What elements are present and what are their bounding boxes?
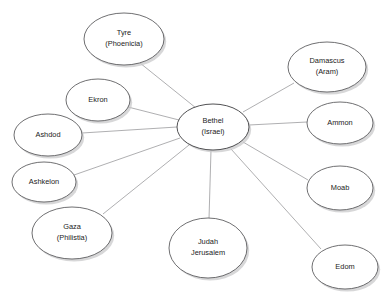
edge-bethel-to-judah [209, 150, 211, 219]
edge-bethel-to-ashkelon [74, 138, 180, 175]
node-label-tyre-line-1: Tyre [117, 28, 131, 37]
node-ashkelon[interactable]: Ashkelon [12, 162, 78, 205]
edge-bethel-to-tyre [140, 63, 196, 108]
edge-bethel-to-damascus [243, 83, 294, 112]
edge-bethel-to-gaza [103, 145, 189, 214]
node-label-bethel-line-1: Bethel [203, 116, 224, 125]
node-edom[interactable]: Edom [312, 245, 380, 292]
node-tyre[interactable]: Tyre(Phoenicia) [84, 13, 166, 68]
node-moab[interactable]: Moab [307, 166, 375, 213]
edge-bethel-to-edom [231, 149, 321, 249]
node-label-edom-line-1: Edom [335, 262, 354, 271]
node-label-gaza-line-2: (Philistia) [57, 233, 87, 242]
nodes-layer: Tyre(Phoenicia)EkronAshdodAshkelonGaza(P… [12, 13, 380, 292]
edge-bethel-to-ekron [128, 107, 179, 120]
node-ashdod[interactable]: Ashdod [14, 114, 84, 159]
network-diagram: Tyre(Phoenicia)EkronAshdodAshkelonGaza(P… [0, 0, 392, 303]
edge-bethel-to-ammon [249, 122, 307, 125]
node-label-ekron-line-1: Ekron [88, 95, 107, 104]
diagram-canvas: Tyre(Phoenicia)EkronAshdodAshkelonGaza(P… [0, 0, 392, 303]
node-label-ammon-line-1: Ammon [327, 118, 352, 127]
node-damascus[interactable]: Damascus(Aram) [288, 42, 368, 95]
node-label-damascus-line-1: Damascus [310, 56, 345, 65]
edge-bethel-to-ashdod [82, 127, 177, 133]
node-ammon[interactable]: Ammon [307, 102, 375, 147]
node-label-ashkelon-line-1: Ashkelon [29, 177, 59, 186]
node-label-gaza-line-1: Gaza [63, 222, 82, 231]
node-label-judah-line-1: Judah [198, 237, 218, 246]
node-label-bethel-line-2: (Israel) [202, 127, 225, 136]
node-label-tyre-line-2: (Phoenicia) [105, 39, 142, 48]
node-label-moab-line-1: Moab [331, 183, 350, 192]
node-ekron[interactable]: Ekron [66, 79, 132, 124]
node-gaza[interactable]: Gaza(Philistia) [32, 207, 114, 262]
node-label-ashdod-line-1: Ashdod [35, 130, 60, 139]
node-judah[interactable]: JudahJerusalem [169, 218, 249, 281]
node-label-judah-line-2: Jerusalem [191, 248, 225, 257]
node-label-damascus-line-2: (Aram) [316, 67, 339, 76]
edge-bethel-to-moab [243, 142, 308, 180]
